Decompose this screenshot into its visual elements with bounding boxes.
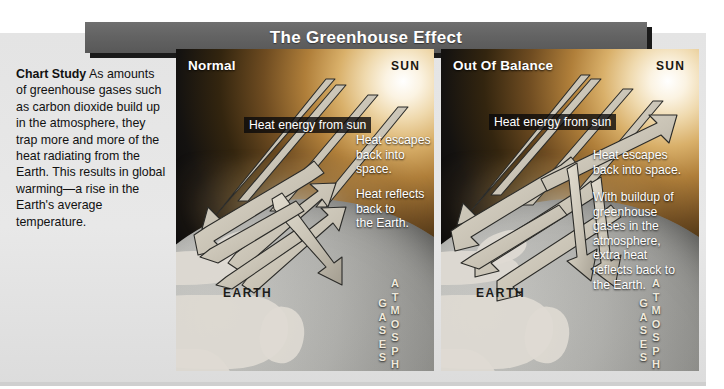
- chart-study-text: Chart Study As amounts of greenhouse gas…: [16, 66, 168, 230]
- earth-label: EARTH: [476, 286, 525, 300]
- greenhouse-effect-figure: The Greenhouse Effect Chart Study As amo…: [0, 0, 724, 389]
- heat-energy-band: Heat energy from sun: [244, 117, 371, 133]
- chart-study-lead: Chart Study: [16, 67, 86, 81]
- caption-heat-reflects: Heat reflects back to the Earth.: [356, 187, 424, 231]
- panel-normal: Normal SUN: [176, 49, 434, 371]
- caption-buildup: With buildup of greenhouse gases in the …: [593, 190, 675, 292]
- page-title: The Greenhouse Effect: [270, 28, 462, 48]
- atmospheric-gases-label: ATMOSPHERIC GASES: [376, 277, 401, 371]
- caption-heat-escapes: Heat escapes back into space.: [356, 133, 431, 177]
- atmospheric-gases-label: ATMOSPHERIC GASES: [637, 277, 662, 371]
- heat-energy-band: Heat energy from sun: [489, 114, 616, 130]
- caption-heat-escapes: Heat escapes back into space.: [593, 148, 681, 177]
- panel-out-of-balance: Out Of Balance SUN Heat energy from sun: [441, 49, 699, 371]
- chart-study-body: As amounts of greenhouse gases such as c…: [16, 67, 165, 229]
- figure-paper-edge: [0, 382, 706, 386]
- earth-label: EARTH: [223, 286, 272, 300]
